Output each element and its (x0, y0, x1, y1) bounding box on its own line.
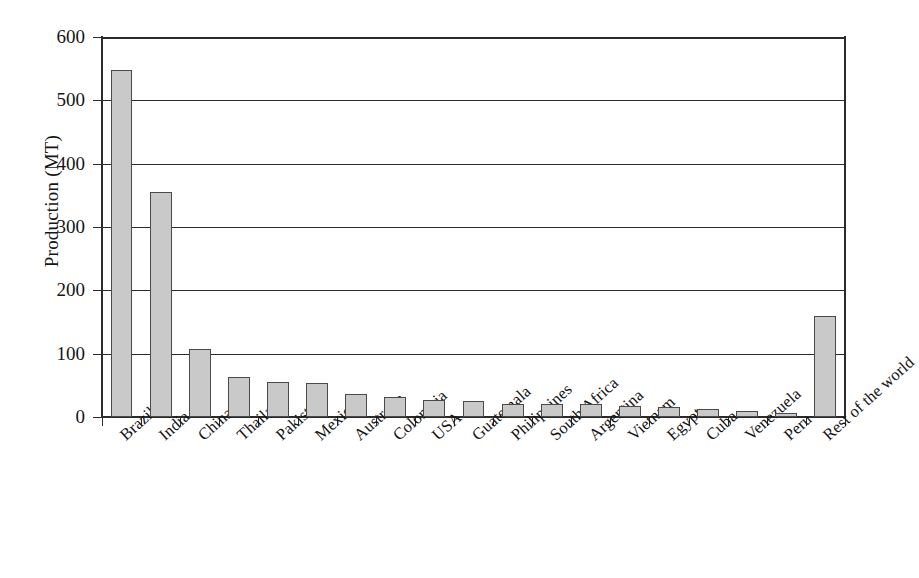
bar (345, 394, 367, 417)
bar (384, 397, 406, 417)
bar (541, 404, 563, 417)
y-axis-tick-mark (93, 164, 102, 165)
bar (697, 409, 719, 417)
bar (814, 316, 836, 417)
y-axis-tick-mark (93, 354, 102, 355)
y-axis-tick-label: 400 (33, 154, 85, 173)
bar (580, 404, 602, 417)
y-axis-tick-label: 0 (33, 407, 85, 426)
bar (736, 411, 758, 417)
plot-area (102, 37, 845, 417)
bar (658, 407, 680, 417)
bar (423, 400, 445, 417)
bar (150, 192, 172, 417)
bar (306, 383, 328, 417)
y-axis-tick-label: 300 (33, 217, 85, 236)
y-axis-tick-label: 500 (33, 90, 85, 109)
y-axis-tick-mark (93, 417, 102, 418)
y-axis-tick-mark (93, 100, 102, 101)
y-axis-tick-mark (93, 37, 102, 38)
bar (189, 349, 211, 417)
x-axis-tick-mark (102, 417, 103, 426)
bar (228, 377, 250, 417)
y-axis-tick-mark (93, 290, 102, 291)
bar (775, 413, 797, 417)
bar (267, 382, 289, 417)
bar (111, 70, 133, 417)
bar (502, 404, 524, 417)
y-axis-tick-label: 100 (33, 344, 85, 363)
y-axis-tick-mark (93, 227, 102, 228)
bar (619, 406, 641, 417)
y-axis-tick-label: 600 (33, 27, 85, 46)
y-axis-tick-label: 200 (33, 280, 85, 299)
bar (463, 401, 485, 417)
